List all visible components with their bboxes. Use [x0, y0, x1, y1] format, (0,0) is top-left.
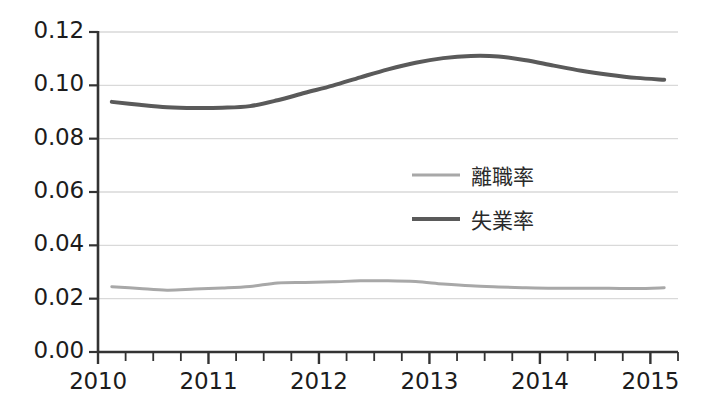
y-axis-tick-label: 0.10 [8, 70, 84, 96]
x-axis-tick-label: 2011 [163, 368, 253, 394]
x-axis-tick-label: 2014 [495, 368, 585, 394]
y-axis-tick-label: 0.08 [8, 124, 84, 150]
x-axis-tick-label: 2013 [384, 368, 474, 394]
legend-line-swatches [412, 175, 460, 219]
series-line-2 [112, 56, 664, 108]
series-line-1 [112, 281, 664, 290]
data-series-lines [112, 56, 664, 290]
legend-label-2: 失業率 [471, 204, 534, 234]
y-axis-tick-label: 0.04 [8, 230, 84, 256]
y-axis-tick-label: 0.02 [8, 284, 84, 310]
y-axis-tick-label: 0.00 [8, 337, 84, 363]
chart-plot-area [0, 0, 702, 410]
y-axis-tick-label: 0.12 [8, 17, 84, 43]
legend-label-1: 離職率 [471, 160, 534, 190]
x-axis-minor-ticks [98, 352, 678, 364]
y-axis-tick-label: 0.06 [8, 177, 84, 203]
y-axis-tick-marks [89, 32, 98, 352]
line-chart: 0.000.020.040.060.080.100.12 20102011201… [0, 0, 702, 410]
x-axis-tick-label: 2010 [53, 368, 143, 394]
x-axis-tick-label: 2012 [274, 368, 364, 394]
x-axis-tick-label: 2015 [605, 368, 695, 394]
